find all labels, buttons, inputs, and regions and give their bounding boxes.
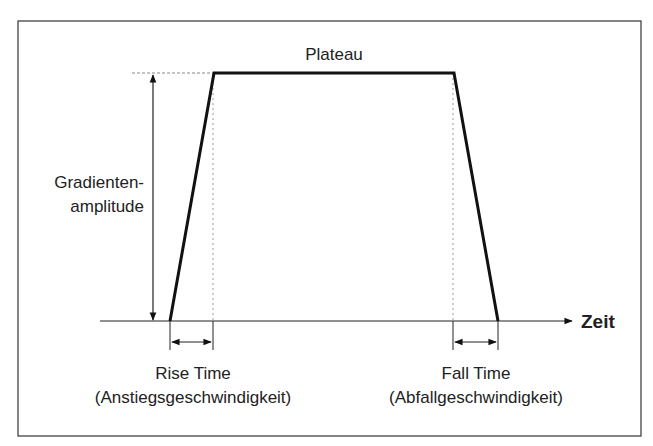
fall-time-label: Fall Time [442, 364, 511, 383]
rise-time-label: Rise Time [155, 364, 231, 383]
rise-time-sublabel: (Anstiegsgeschwindigkeit) [95, 388, 292, 407]
x-axis-label: Zeit [581, 311, 615, 332]
gradient-pulse [170, 73, 498, 321]
trapezoid-diagram: Plateau Gradienten- amplitude Zeit Rise … [0, 0, 653, 446]
fall-time-sublabel: (Abfallgeschwindigkeit) [389, 388, 563, 407]
y-label-line1: Gradienten- [54, 173, 144, 192]
y-label-line2: amplitude [70, 197, 144, 216]
plateau-label: Plateau [305, 45, 363, 64]
frame [18, 21, 641, 436]
